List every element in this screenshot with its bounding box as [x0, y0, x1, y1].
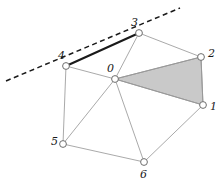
mesh-edge-2-3 — [139, 33, 201, 57]
mesh-edge-5-6 — [63, 144, 144, 162]
node-label-0: 0 — [107, 63, 114, 74]
mesh-edge-0-5 — [63, 79, 115, 144]
mesh-edge-6-1 — [144, 105, 203, 162]
mesh-node-1[interactable] — [200, 102, 207, 109]
node-label-1: 1 — [210, 101, 217, 112]
shaded-triangle-0-2-1 — [115, 57, 203, 105]
mesh-canvas — [0, 0, 222, 184]
mesh-edge-3-4 — [66, 33, 139, 66]
mesh-node-4[interactable] — [63, 63, 70, 70]
mesh-node-6[interactable] — [141, 159, 148, 166]
node-label-2: 2 — [208, 48, 215, 59]
node-label-6: 6 — [140, 169, 147, 180]
mesh-node-5[interactable] — [60, 141, 67, 148]
mesh-node-3[interactable] — [136, 30, 143, 37]
mesh-edge-0-6 — [115, 79, 144, 162]
node-label-3: 3 — [131, 17, 138, 28]
node-label-5: 5 — [51, 136, 58, 147]
mesh-edge-4-5 — [63, 66, 66, 144]
node-label-4: 4 — [58, 50, 65, 61]
mesh-node-2[interactable] — [198, 54, 205, 61]
mesh-edge-0-3 — [115, 33, 139, 79]
mesh-figure: 0123456 — [0, 0, 222, 184]
mesh-node-0[interactable] — [112, 76, 119, 83]
shaded-region-group — [115, 57, 203, 105]
